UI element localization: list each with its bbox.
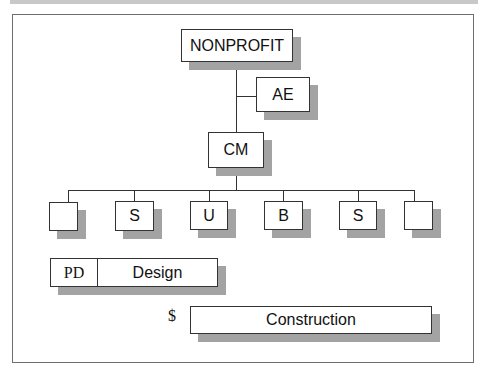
phase-construction-label: Construction <box>266 311 356 329</box>
connector-drop-2 <box>134 190 135 201</box>
connector-to-ae <box>236 96 256 97</box>
connector-horizontal-bus <box>68 190 414 191</box>
connector-drop-1 <box>68 190 69 202</box>
connector-drop-5 <box>358 190 359 201</box>
phase-design-prefix: PD <box>51 259 98 286</box>
connector-drop-3 <box>209 190 210 201</box>
node-cm-label: CM <box>224 141 249 159</box>
node-consultant-5: S <box>339 201 377 230</box>
phase-design-label-cell: Design <box>98 259 217 286</box>
connector-cm-down <box>236 168 237 190</box>
top-rule <box>10 0 478 4</box>
phase-design-bar: PD Design <box>50 258 218 287</box>
node-consultant-6 <box>404 201 433 230</box>
node-consultant-4: B <box>264 201 303 230</box>
node-consultant-1 <box>49 202 78 231</box>
connector-drop-4 <box>283 190 284 201</box>
node-ae: AE <box>256 77 310 112</box>
phase-construction-bar: Construction <box>190 306 432 334</box>
phase-construction-prefix: $ <box>168 307 176 325</box>
node-consultant-2: S <box>115 201 154 231</box>
node-nonprofit: NONPROFIT <box>181 29 293 62</box>
node-nonprofit-label: NONPROFIT <box>190 37 284 55</box>
node-consultant-3: U <box>190 201 228 230</box>
node-cm: CM <box>208 132 264 168</box>
node-ae-label: AE <box>272 86 293 104</box>
connector-top-to-cm <box>236 62 237 132</box>
